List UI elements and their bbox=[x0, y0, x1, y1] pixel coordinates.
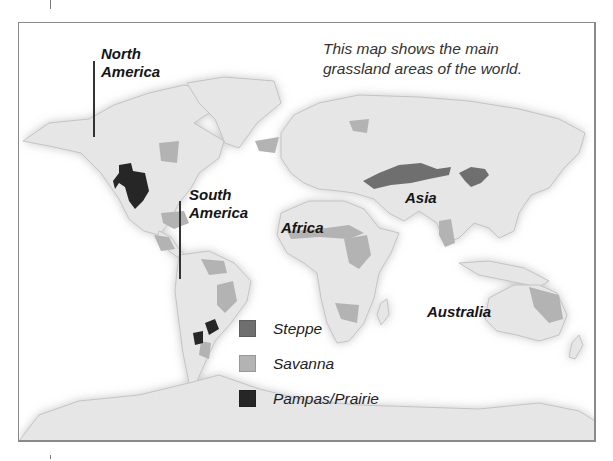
legend-item-steppe: Steppe bbox=[239, 311, 379, 346]
pampas-prairie-swatch-icon bbox=[239, 390, 256, 407]
legend-item-savanna: Savanna bbox=[239, 346, 379, 381]
caption-line-2: grassland areas of the world. bbox=[323, 59, 593, 79]
legend-label-savanna: Savanna bbox=[273, 355, 334, 373]
region-label-africa: Africa bbox=[281, 219, 324, 237]
legend-label-pampas-prairie: Pampas/Prairie bbox=[273, 390, 379, 408]
map-legend: Steppe Savanna Pampas/Prairie bbox=[239, 311, 379, 416]
crop-mark-bottom bbox=[50, 455, 51, 459]
steppe-swatch-icon bbox=[239, 320, 256, 337]
region-label-south-america: South America bbox=[189, 186, 248, 222]
new-zealand-land bbox=[569, 335, 583, 359]
north-america-line1: North bbox=[101, 45, 160, 63]
region-label-australia: Australia bbox=[427, 303, 491, 321]
map-caption: This map shows the main grassland areas … bbox=[323, 39, 593, 79]
map-frame: North America South America Africa Asia … bbox=[18, 22, 596, 442]
north-america-line2: America bbox=[101, 63, 160, 81]
crop-mark-top bbox=[50, 0, 51, 9]
north-america-leader-line bbox=[93, 61, 95, 137]
south-america-line2: America bbox=[189, 204, 248, 222]
south-america-leader-line bbox=[179, 201, 181, 279]
caption-line-1: This map shows the main bbox=[323, 39, 593, 59]
south-america-line1: South bbox=[189, 186, 248, 204]
region-label-north-america: North America bbox=[101, 45, 160, 81]
legend-item-pampas-prairie: Pampas/Prairie bbox=[239, 381, 379, 416]
region-label-asia: Asia bbox=[405, 189, 437, 207]
legend-label-steppe: Steppe bbox=[273, 320, 322, 338]
savanna-swatch-icon bbox=[239, 355, 256, 372]
indonesia-land bbox=[459, 261, 549, 287]
